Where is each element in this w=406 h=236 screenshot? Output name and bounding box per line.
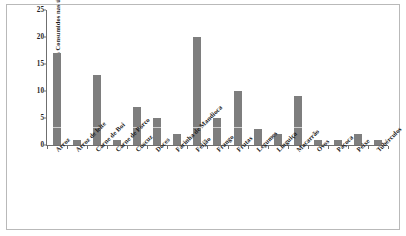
- bar-slot: [167, 10, 187, 145]
- y-tick-label-25: 25: [22, 6, 44, 14]
- y-tick-label-10: 10: [22, 87, 44, 95]
- x-axis-tick-labels: ArrozArroz de leiteCarne de BoiCarne de …: [47, 148, 388, 228]
- x-tick-mark: [388, 146, 389, 149]
- bar-slot: [348, 10, 368, 145]
- bar-slot: [368, 10, 388, 145]
- bar: [53, 53, 61, 145]
- bar-slot: [288, 10, 308, 145]
- bar-slot: [47, 10, 67, 145]
- bar-slot: [67, 10, 87, 145]
- bar-slot: [268, 10, 288, 145]
- y-tick-label-20: 20: [22, 33, 44, 41]
- bar-slot: [308, 10, 328, 145]
- bar-slot: [147, 10, 167, 145]
- y-tick-label-5: 5: [22, 114, 44, 122]
- bar-slot: [228, 10, 248, 145]
- bar-slot: [248, 10, 268, 145]
- y-tick-label-15: 15: [22, 60, 44, 68]
- chart-figure: Alimentos Consumidos nas últimas 24h (%)…: [0, 0, 406, 236]
- y-tick-label-0: 0: [22, 141, 44, 149]
- bar-slot: [207, 10, 227, 145]
- y-axis-tick-labels: 0510152025: [18, 10, 44, 145]
- bar-slot: [328, 10, 348, 145]
